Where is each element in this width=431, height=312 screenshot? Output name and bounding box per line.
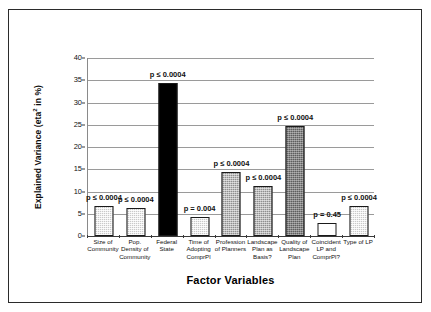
x-axis-line xyxy=(88,236,374,237)
plot-area: p ≤ 0.0004p ≤ 0.0004p ≤ 0.0004p = 0.004p… xyxy=(87,58,374,236)
y-tick-mark-15 xyxy=(82,169,85,170)
x-tick-mark xyxy=(374,235,375,238)
x-tick-label: Landscape Plan as Basis? xyxy=(246,238,278,260)
y-tick-mark-5 xyxy=(82,213,85,214)
figure-border: Explained Variance (eta2 in %) 051015202… xyxy=(8,9,422,303)
bar xyxy=(126,208,145,236)
bar-slot: p = 0.004 xyxy=(184,58,216,236)
bar xyxy=(190,217,209,236)
p-value-annotation: p = 0.004 xyxy=(184,204,216,213)
y-tick-label-35: 35 xyxy=(74,76,82,84)
p-value-annotation: p ≤ 0.0004 xyxy=(245,173,281,182)
bar-slot: p ≤ 0.0004 xyxy=(279,58,311,236)
bar-series: p ≤ 0.0004p ≤ 0.0004p ≤ 0.0004p = 0.004p… xyxy=(88,58,374,236)
y-axis-title-main: Explained Variance (eta xyxy=(33,112,43,209)
bar xyxy=(158,83,177,236)
p-value-annotation: p ≤ 0.0004 xyxy=(214,159,250,168)
p-value-annotation: p ≤ 0.0004 xyxy=(150,70,186,79)
p-value-annotation: p ≤ 0.0004 xyxy=(277,113,313,122)
y-tick-label-20: 20 xyxy=(74,143,82,151)
bar-slot: p = 0.45 xyxy=(311,58,343,236)
y-axis-title-superscript: 2 xyxy=(32,108,38,111)
x-tick-label: Coincident LP and ComprPl? xyxy=(310,238,342,260)
bar xyxy=(350,206,369,236)
bar-slot: p ≤ 0.0004 xyxy=(88,58,120,236)
bar-slot: p ≤ 0.0004 xyxy=(343,58,375,236)
x-axis-title: Factor Variables xyxy=(87,274,374,286)
p-value-annotation: p = 0.45 xyxy=(313,210,341,219)
bar-slot: p ≤ 0.0004 xyxy=(247,58,279,236)
p-value-annotation: p ≤ 0.0004 xyxy=(86,193,122,202)
y-tick-mark-20 xyxy=(82,147,85,148)
bar-slot: p ≤ 0.0004 xyxy=(152,58,184,236)
y-tick-mark-10 xyxy=(82,191,85,192)
bar xyxy=(94,206,113,236)
y-tick-label-25: 25 xyxy=(74,121,82,129)
x-tick-label: Quality of Landscape Plan xyxy=(278,238,310,260)
bar xyxy=(318,223,337,236)
y-tick-label-10: 10 xyxy=(74,188,82,196)
x-tick-label: Time of Adopting ComprPl xyxy=(183,238,215,260)
y-axis-title: Explained Variance (eta2 in %) xyxy=(27,58,43,236)
y-axis-ticks: 0510152025303540 xyxy=(63,58,85,236)
bar xyxy=(254,186,273,236)
bar xyxy=(222,172,241,236)
bar-slot: p ≤ 0.0004 xyxy=(120,58,152,236)
y-tick-mark-25 xyxy=(82,124,85,125)
bar-slot: p ≤ 0.0004 xyxy=(216,58,248,236)
p-value-annotation: p ≤ 0.0004 xyxy=(118,195,154,204)
y-tick-label-40: 40 xyxy=(74,54,82,62)
y-axis-title-tail: in %) xyxy=(33,85,43,108)
y-tick-label-30: 30 xyxy=(74,99,82,107)
x-tick-label: Size of Community xyxy=(87,238,119,253)
y-tick-mark-0 xyxy=(82,236,85,237)
figure-container: Explained Variance (eta2 in %) 051015202… xyxy=(0,0,431,312)
y-tick-mark-35 xyxy=(82,80,85,81)
bar xyxy=(286,126,305,236)
x-tick-label: Pop. Density of Community xyxy=(119,238,151,260)
y-tick-mark-40 xyxy=(82,58,85,59)
y-tick-label-15: 15 xyxy=(74,165,82,173)
x-tick-label: Type of LP xyxy=(342,238,374,245)
x-axis-labels: Size of CommunityPop. Density of Communi… xyxy=(87,238,374,274)
y-tick-mark-30 xyxy=(82,102,85,103)
x-tick-label: Profession of Planners xyxy=(215,238,247,253)
x-tick-label: Federal State xyxy=(151,238,183,253)
p-value-annotation: p ≤ 0.0004 xyxy=(341,193,377,202)
